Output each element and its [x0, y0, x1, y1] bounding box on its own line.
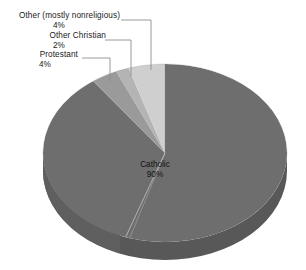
label-other-christian: Other Christian 2% [28, 31, 106, 50]
label-protestant-text: Protestant [40, 50, 78, 59]
pie-chart: Other (mostly nonreligious) 4% Other Chr… [0, 0, 306, 270]
label-other-christian-value: 2% [28, 41, 106, 51]
label-catholic-text: Catholic [140, 160, 170, 169]
label-protestant-value: 4% [20, 60, 78, 70]
label-other-nonreligious-text: Other (mostly nonreligious) [19, 11, 120, 20]
label-protestant: Protestant 4% [20, 50, 78, 69]
label-other-christian-text: Other Christian [49, 31, 106, 40]
leader-line-other-nonreligious [121, 20, 151, 70]
label-catholic: Catholic 90% [121, 160, 189, 180]
label-other-nonreligious: Other (mostly nonreligious) 4% [16, 11, 120, 30]
label-catholic-value: 90% [121, 170, 189, 180]
label-other-nonreligious-value: 4% [16, 21, 120, 31]
